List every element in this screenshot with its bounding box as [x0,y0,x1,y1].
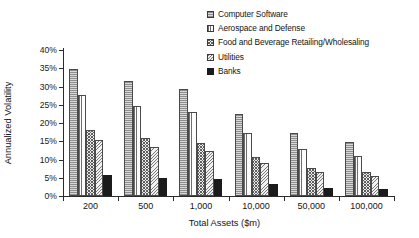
y-axis-tick-label: 10% [40,155,57,165]
bar-group [339,50,394,196]
bar-group [118,50,173,196]
x-axis-tick-mark [394,196,395,201]
bar [345,142,354,196]
y-axis-tick-label: 20% [40,118,57,128]
x-axis-title-text: Total Assets ($m) [189,218,260,228]
bar-chart: Computer Software Aerospace and Defense … [0,0,419,238]
bar [260,163,269,196]
legend-item-food-and-beverage: Food and Beverage Retailing/Wholesaling [207,37,369,48]
y-axis-tick-label: 15% [40,136,57,146]
y-axis-tick-label: 40% [40,45,57,55]
y-axis-tick-label: 0% [45,191,57,201]
x-axis-category-label: 200 [63,201,118,211]
y-axis-tick-label: 25% [40,100,57,110]
bar [159,178,168,196]
bar-group [63,50,118,196]
bar [269,184,278,196]
bar [86,130,95,196]
bar [69,69,78,196]
y-axis-tick-label: 35% [40,63,57,73]
bar [354,156,363,196]
x-axis-tick-mark [173,196,174,201]
bar-groups [63,50,394,196]
legend-item-computer-software: Computer Software [207,9,369,20]
bar [78,95,87,196]
bar [124,81,133,196]
y-axis-title-text: Annualized Volatility [3,82,13,165]
bar [324,188,333,196]
x-axis-category-label: 500 [118,201,173,211]
bar [95,140,104,196]
legend-swatch-icon-aerospace-and-defense [207,25,214,32]
bar [179,89,188,196]
legend-swatch-icon-computer-software [207,11,214,18]
bar [379,189,388,196]
x-axis-category-label: 50,000 [284,201,339,211]
bar-group [284,50,339,196]
x-axis-tick-mark [284,196,285,201]
x-axis-category-label: 1,000 [173,201,228,211]
bar [316,172,325,196]
legend-label-aerospace-and-defense: Aerospace and Defense [218,24,305,33]
bar-group [229,50,284,196]
legend-label-computer-software: Computer Software [218,10,288,19]
bar [307,168,316,196]
bar-group [173,50,228,196]
bar [252,157,261,196]
bar [133,106,142,196]
bar [362,172,371,196]
y-axis-tick-label: 5% [45,173,57,183]
bar [214,179,223,196]
x-axis-category-labels: 2005001,00010,00050,000100,000 [63,201,394,211]
legend-swatch-icon-food-and-beverage [207,39,214,46]
legend-item-aerospace-and-defense: Aerospace and Defense [207,23,369,34]
bar [243,133,252,196]
bar [205,151,214,196]
legend-label-food-and-beverage: Food and Beverage Retailing/Wholesaling [218,38,369,47]
x-axis-tick-mark [118,196,119,201]
x-axis-tick-mark [339,196,340,201]
bar [290,133,299,196]
x-axis-tick-mark [229,196,230,201]
bar [197,143,206,196]
bar [235,114,244,196]
x-axis-category-label: 10,000 [229,201,284,211]
y-axis-tick-label: 30% [40,82,57,92]
y-axis-title: Annualized Volatility [2,50,14,196]
bar [371,176,380,196]
bar [150,147,159,196]
x-axis-tick-mark [63,196,64,201]
bar [298,149,307,196]
bar [141,138,150,196]
bar [188,112,197,196]
bar [103,175,112,196]
x-axis-category-label: 100,000 [339,201,394,211]
x-axis-title: Total Assets ($m) [0,218,419,228]
